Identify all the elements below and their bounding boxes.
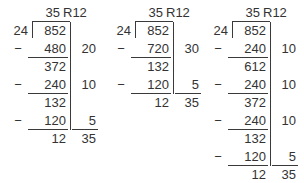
partial-quotient-total-3: 35: [272, 167, 296, 182]
subtrahend-2-1: 720: [133, 41, 169, 56]
difference-3-2: 372: [230, 95, 266, 110]
long-division-worksheet: 35 R12 24 852 − 480 372 20 − 240 132 10 …: [0, 0, 304, 183]
subtrahend-1-3: 120: [30, 113, 66, 128]
division-problem-2: 35 R12 24 852 − 720 132 30 − 120 12 5 35: [103, 0, 199, 183]
minus-sign-3-3: −: [212, 113, 224, 128]
subtrahend-1-1: 480: [30, 41, 66, 56]
partial-quotient-total-rule-2: [175, 93, 201, 94]
remainder-label-3: R12: [263, 6, 287, 20]
subtraction-rule-2-2: [131, 93, 171, 94]
subtrahend-2-2: 120: [133, 77, 169, 92]
division-bracket-overbar-1: [32, 21, 70, 22]
dividend-3: 852: [236, 23, 266, 38]
quotient-header-3: 35 R12: [200, 6, 304, 20]
dividend-2: 852: [139, 23, 169, 38]
subtraction-rule-1-3: [28, 129, 68, 130]
minus-sign-1-1: −: [12, 41, 24, 56]
remainder-label-1: R12: [63, 6, 87, 20]
subtrahend-3-3: 240: [230, 113, 266, 128]
minus-sign-1-3: −: [12, 113, 24, 128]
final-remainder-1: 12: [30, 131, 66, 146]
partial-quotient-3-3: 10: [272, 113, 296, 128]
divisor-3: 24: [206, 23, 228, 38]
partial-quotient-1-2: 10: [72, 77, 96, 92]
divisor-2: 24: [109, 23, 131, 38]
quotient-value-1: 35: [28, 6, 60, 20]
difference-1-1: 372: [30, 59, 66, 74]
difference-3-3: 132: [230, 131, 266, 146]
subtraction-rule-3-3: [228, 129, 268, 130]
division-bracket-vertical-3: [232, 21, 233, 38]
partial-quotient-2-1: 30: [175, 41, 199, 56]
partial-quotient-1-3: 5: [72, 113, 96, 128]
partial-quotient-total-rule-1: [72, 129, 98, 130]
partial-quotient-total-rule-3: [272, 165, 298, 166]
final-remainder-2: 12: [133, 95, 169, 110]
partial-quotient-3-2: 10: [272, 77, 296, 92]
division-bracket-vertical-2: [135, 21, 136, 38]
subtraction-rule-2-1: [131, 57, 171, 58]
quotient-value-3: 35: [228, 6, 260, 20]
final-remainder-3: 12: [230, 167, 266, 182]
subtraction-rule-1-2: [28, 93, 68, 94]
partial-quotient-total-1: 35: [72, 131, 96, 146]
difference-3-1: 612: [230, 59, 266, 74]
partial-quotient-2-2: 5: [175, 77, 199, 92]
minus-sign-2-2: −: [115, 77, 127, 92]
partial-quotient-3-4: 5: [272, 149, 296, 164]
quotient-header-2: 35 R12: [103, 6, 199, 20]
subtraction-rule-1-1: [28, 57, 68, 58]
minus-sign-2-1: −: [115, 41, 127, 56]
division-bracket-vertical-1: [32, 21, 33, 38]
minus-sign-3-4: −: [212, 149, 224, 164]
dividend-1: 852: [36, 23, 66, 38]
partial-quotient-3-1: 10: [272, 41, 296, 56]
partial-quotient-1-1: 20: [72, 41, 96, 56]
partial-quotient-total-2: 35: [175, 95, 199, 110]
subtrahend-3-1: 240: [230, 41, 266, 56]
division-problem-3: 35 R12 24 852 − 240 612 10 − 240 372 10 …: [200, 0, 304, 183]
subtrahend-3-2: 240: [230, 77, 266, 92]
subtrahend-3-4: 120: [230, 149, 266, 164]
difference-2-1: 132: [133, 59, 169, 74]
division-bracket-overbar-3: [232, 21, 270, 22]
quotient-header-1: 35 R12: [0, 6, 100, 20]
division-bracket-overbar-2: [135, 21, 173, 22]
quotient-value-2: 35: [131, 6, 163, 20]
minus-sign-3-1: −: [212, 41, 224, 56]
subtrahend-1-2: 240: [30, 77, 66, 92]
remainder-label-2: R12: [166, 6, 190, 20]
partial-quotient-divider-1: [70, 22, 71, 130]
subtraction-rule-3-4: [228, 165, 268, 166]
difference-1-2: 132: [30, 95, 66, 110]
minus-sign-3-2: −: [212, 77, 224, 92]
divisor-1: 24: [6, 23, 28, 38]
subtraction-rule-3-2: [228, 93, 268, 94]
division-problem-1: 35 R12 24 852 − 480 372 20 − 240 132 10 …: [0, 0, 100, 183]
minus-sign-1-2: −: [12, 77, 24, 92]
partial-quotient-divider-3: [270, 22, 271, 166]
subtraction-rule-3-1: [228, 57, 268, 58]
partial-quotient-divider-2: [173, 22, 174, 94]
